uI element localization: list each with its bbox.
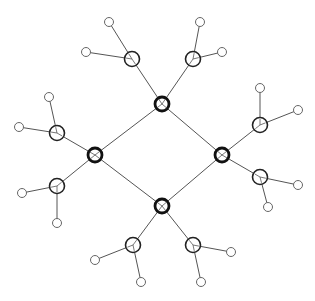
terminal-atom [82, 48, 91, 57]
bonds [19, 22, 298, 282]
terminal-atom [218, 48, 227, 57]
terminal-atom [45, 93, 54, 102]
terminal-atom [227, 248, 236, 257]
ring-bond [162, 104, 222, 155]
terminal-atom [294, 106, 303, 115]
terminal-atom [91, 256, 100, 265]
terminal-atom [105, 18, 114, 27]
terminal-atom [196, 18, 205, 27]
molecule-diagram [0, 0, 315, 301]
ring-bond [162, 155, 222, 206]
terminal-atom [53, 219, 62, 228]
ring-bond [95, 155, 162, 206]
terminal-atom [197, 278, 206, 287]
atoms [15, 18, 303, 287]
terminal-atom [15, 123, 24, 132]
ring-bond [95, 104, 162, 155]
terminal-atom [294, 181, 303, 190]
terminal-atom [256, 84, 265, 93]
terminal-atom [264, 203, 273, 212]
terminal-atom [137, 278, 146, 287]
terminal-atom [18, 189, 27, 198]
